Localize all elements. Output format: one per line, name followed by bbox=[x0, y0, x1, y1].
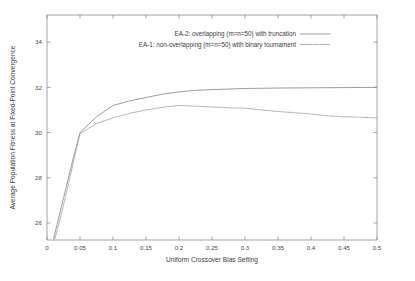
x-tick-label: 0.5 bbox=[373, 244, 382, 251]
y-tick-label: 30 bbox=[35, 129, 42, 136]
x-axis-title: Uniform Crossover Bias Setting bbox=[166, 256, 258, 264]
y-tick-label: 28 bbox=[35, 174, 42, 181]
plot-frame bbox=[47, 15, 377, 240]
x-tick-label: 0.45 bbox=[338, 244, 351, 251]
y-tick-label: 34 bbox=[35, 38, 42, 45]
x-tick-label: 0.15 bbox=[140, 244, 153, 251]
series-line-2 bbox=[55, 105, 377, 238]
legend-label-2: EA-1: non-overlapping (m=n=50) with bina… bbox=[139, 41, 296, 49]
x-tick-label: 0.3 bbox=[241, 244, 250, 251]
x-tick-label: 0.2 bbox=[175, 244, 184, 251]
line-chart: 00.050.10.150.20.250.30.350.40.450.52628… bbox=[0, 0, 415, 281]
series-line-1 bbox=[54, 87, 377, 239]
y-axis-title: Average Population Fitness at Fixed-Poin… bbox=[9, 45, 17, 209]
y-tick-label: 26 bbox=[35, 219, 42, 226]
x-tick-label: 0.05 bbox=[74, 244, 87, 251]
y-tick-label: 32 bbox=[35, 84, 42, 91]
chart-figure: 00.050.10.150.20.250.30.350.40.450.52628… bbox=[0, 0, 415, 281]
x-tick-label: 0 bbox=[45, 244, 49, 251]
x-tick-label: 0.25 bbox=[206, 244, 219, 251]
legend-label-1: EA-2: overlapping (m=n=50) with truncati… bbox=[175, 30, 297, 38]
x-tick-label: 0.4 bbox=[307, 244, 316, 251]
x-tick-label: 0.1 bbox=[109, 244, 118, 251]
x-tick-label: 0.35 bbox=[272, 244, 285, 251]
